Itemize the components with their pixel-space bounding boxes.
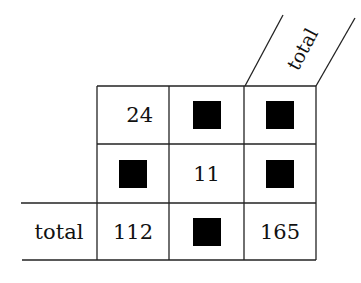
cell-r1-c3 xyxy=(244,86,316,144)
cell-value: 24 xyxy=(126,103,153,127)
cell-value: 11 xyxy=(193,162,220,186)
masked-square-icon xyxy=(119,160,147,188)
masked-square-icon xyxy=(266,101,294,129)
cell-value: 165 xyxy=(260,220,300,244)
cell-total-c3: 165 xyxy=(244,203,316,260)
cell-total-c2 xyxy=(169,203,244,260)
cell-value: 112 xyxy=(113,220,153,244)
cell-r2-c2: 11 xyxy=(169,144,244,203)
cell-r2-c1 xyxy=(97,144,169,203)
masked-square-icon xyxy=(193,101,221,129)
row-label-total: total xyxy=(21,203,97,260)
cell-total-c1: 112 xyxy=(97,203,169,260)
masked-square-icon xyxy=(193,218,221,246)
cell-r1-c2 xyxy=(169,86,244,144)
row-label-text: total xyxy=(35,220,84,244)
cell-r1-c1: 24 xyxy=(97,86,169,144)
masked-square-icon xyxy=(266,160,294,188)
cell-r2-c3 xyxy=(244,144,316,203)
